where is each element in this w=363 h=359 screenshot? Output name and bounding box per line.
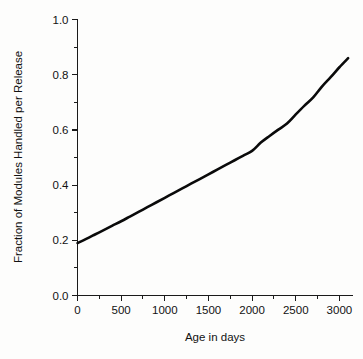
y-tick-label: 0.8 xyxy=(53,69,69,81)
y-axis-ticks xyxy=(72,20,78,296)
y-tick-label: 0.4 xyxy=(53,179,70,191)
x-tick-label: 1000 xyxy=(152,304,178,316)
x-tick-label: 2000 xyxy=(239,304,265,316)
data-series-line xyxy=(78,58,349,243)
y-axis-group: 0.00.20.40.60.81.0 Fraction of Modules H… xyxy=(12,14,78,302)
y-tick-label: 0.6 xyxy=(53,124,69,136)
y-tick-label: 0.0 xyxy=(53,290,69,302)
x-tick-label: 1500 xyxy=(196,304,222,316)
x-axis-tick-labels: 050010001500200025003000 xyxy=(74,304,352,316)
x-axis-group: 050010001500200025003000 Age in days xyxy=(74,296,352,344)
x-tick-label: 2500 xyxy=(283,304,309,316)
line-chart-svg: 0.00.20.40.60.81.0 Fraction of Modules H… xyxy=(0,0,363,359)
y-axis-tick-labels: 0.00.20.40.60.81.0 xyxy=(53,14,70,302)
x-tick-label: 3000 xyxy=(327,304,353,316)
plot-area xyxy=(78,58,349,243)
x-tick-label: 0 xyxy=(74,304,80,316)
x-axis-ticks xyxy=(78,296,340,302)
x-axis-title: Age in days xyxy=(185,331,245,343)
y-tick-label: 1.0 xyxy=(53,14,69,26)
y-tick-label: 0.2 xyxy=(53,234,69,246)
y-axis-title: Fraction of Modules Handled per Release xyxy=(12,51,24,263)
chart-figure: 0.00.20.40.60.81.0 Fraction of Modules H… xyxy=(0,0,363,359)
x-tick-label: 500 xyxy=(112,304,131,316)
